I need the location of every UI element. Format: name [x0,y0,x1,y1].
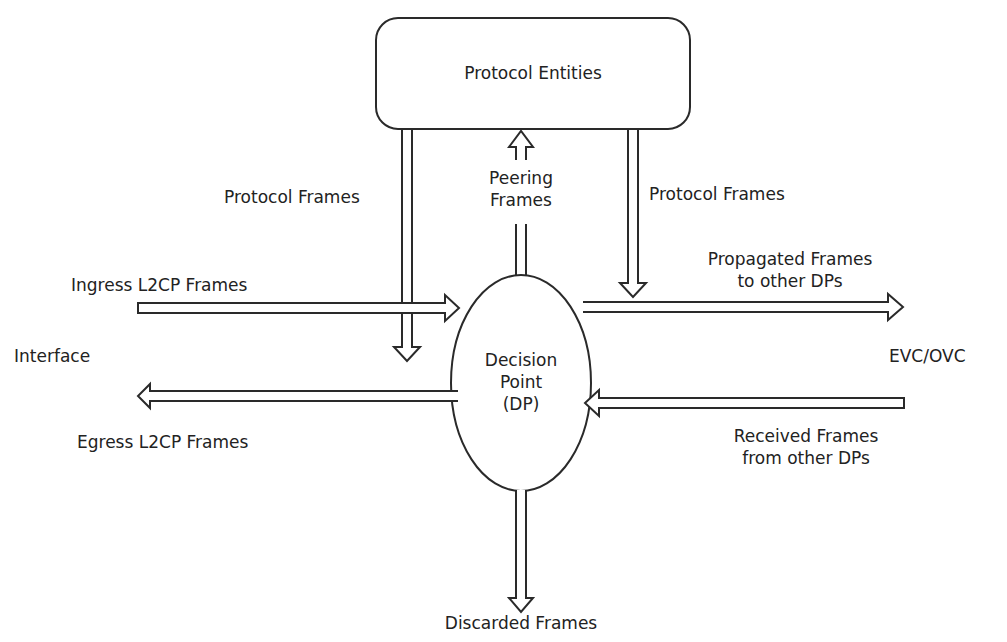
peering-frames-line-1: Peering [471,167,571,189]
interface-label: Interface [14,345,90,367]
evc-ovc-label: EVC/OVC [889,345,966,367]
received-line-1: Received Frames [706,425,906,447]
decision-point-line-3: (DP) [451,393,591,415]
discarded-arrow [509,490,533,612]
propagated-label: Propagated Frames to other DPs [690,248,890,292]
peering-frames-label: Peering Frames [471,167,571,211]
received-line-2: from other DPs [706,447,906,469]
ingress-label: Ingress L2CP Frames [71,274,247,296]
received-arrow [585,390,904,416]
protocol-frames-left-label: Protocol Frames [224,186,360,208]
peering-frames-arrow [516,224,526,275]
decision-point-line-1: Decision [451,349,591,371]
protocol-frames-right-arrow [620,130,646,297]
propagated-line-2: to other DPs [690,270,890,292]
protocol-frames-left-arrow [394,130,420,361]
discarded-label: Discarded Frames [411,612,631,634]
egress-label: Egress L2CP Frames [77,431,248,453]
protocol-entities-label: Protocol Entities [376,62,690,84]
decision-point-line-2: Point [451,371,591,393]
propagated-line-1: Propagated Frames [690,248,890,270]
received-label: Received Frames from other DPs [706,425,906,469]
peering-frames-line-2: Frames [471,189,571,211]
decision-point-label: Decision Point (DP) [451,349,591,415]
egress-arrow [138,384,458,408]
propagated-arrow [583,294,903,320]
peering-frames-arrowhead [509,131,533,160]
diagram-canvas [0,0,1007,642]
protocol-frames-right-label: Protocol Frames [649,183,785,205]
